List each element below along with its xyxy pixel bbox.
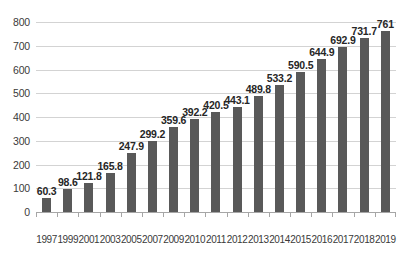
- y-axis-tick-label: 700: [0, 40, 30, 52]
- bar: [127, 153, 136, 212]
- bar-value-label: 60.3: [37, 185, 57, 197]
- x-axis-tick: [163, 212, 184, 217]
- x-axis-category-label: 2017: [332, 234, 353, 245]
- bar: [381, 31, 390, 212]
- bar: [42, 198, 51, 212]
- bar-slot: 590.5: [290, 22, 311, 212]
- x-axis-tick: [78, 212, 99, 217]
- x-axis-tick: [290, 212, 311, 217]
- x-axis-category-label: 2007: [142, 234, 163, 245]
- y-axis-tick-label: 0: [0, 206, 30, 218]
- x-axis-tick: [227, 212, 248, 217]
- x-axis-tick: [121, 212, 142, 217]
- bar-slot: 731.7: [354, 22, 375, 212]
- x-axis-category-label: 1997: [36, 234, 57, 245]
- bar-value-label: 165.8: [97, 160, 122, 172]
- x-axis-tick: [184, 212, 205, 217]
- x-axis-ticks: [36, 212, 396, 217]
- bar-value-label: 761: [377, 18, 394, 30]
- x-axis-tick: [354, 212, 375, 217]
- x-axis-category-label: 2016: [311, 234, 332, 245]
- bar-chart: 0100200300400500600700800 60.398.6121.81…: [0, 0, 402, 254]
- bar-value-label: 533.2: [267, 72, 292, 84]
- x-axis-category-label: 2001: [78, 234, 99, 245]
- x-axis-category-label: 2010: [184, 234, 205, 245]
- bar: [211, 112, 220, 212]
- bar-slot: 392.2: [184, 22, 205, 212]
- bar-slot: 692.9: [332, 22, 353, 212]
- x-axis-tick: [375, 212, 396, 217]
- bar-slot: 489.8: [248, 22, 269, 212]
- y-axis-tick-label: 600: [0, 64, 30, 76]
- bar-value-label: 644.9: [309, 46, 334, 58]
- bar: [254, 96, 263, 212]
- bar-slot: 420.5: [205, 22, 226, 212]
- bar-slot: 60.3: [36, 22, 57, 212]
- y-axis-tick-label: 500: [0, 87, 30, 99]
- x-axis-category-label: 2013: [248, 234, 269, 245]
- y-axis-tick-label: 300: [0, 135, 30, 147]
- y-axis-tick-label: 200: [0, 159, 30, 171]
- bar-value-label: 247.9: [119, 140, 144, 152]
- bar-slot: 533.2: [269, 22, 290, 212]
- bar: [106, 173, 115, 212]
- bar-value-label: 121.8: [76, 170, 101, 182]
- bar-slot: 359.6: [163, 22, 184, 212]
- x-axis-tick: [311, 212, 332, 217]
- x-axis-tick: [205, 212, 226, 217]
- bar: [63, 189, 72, 212]
- bar-value-label: 731.7: [352, 25, 377, 37]
- bar: [338, 47, 347, 212]
- bar: [169, 127, 178, 212]
- bars-layer: 60.398.6121.8165.8247.9299.2359.6392.242…: [36, 22, 396, 212]
- bar-slot: 165.8: [100, 22, 121, 212]
- x-axis-tick: [248, 212, 269, 217]
- y-axis-tick-label: 400: [0, 111, 30, 123]
- x-axis-category-label: 1999: [57, 234, 78, 245]
- x-axis-category-label: 2018: [354, 234, 375, 245]
- bar-slot: 443.1: [227, 22, 248, 212]
- x-axis-category-label: 2003: [100, 234, 121, 245]
- bar: [275, 85, 284, 212]
- bar-value-label: 489.8: [246, 83, 271, 95]
- bar: [317, 59, 326, 212]
- x-axis-tick: [36, 212, 57, 217]
- x-axis-category-label: 2011: [205, 234, 226, 245]
- x-axis-tick: [332, 212, 353, 217]
- y-axis-tick-label: 100: [0, 182, 30, 194]
- bar: [233, 107, 242, 212]
- x-axis-tick: [57, 212, 78, 217]
- bar-value-label: 590.5: [288, 59, 313, 71]
- x-axis-category-label: 2019: [375, 234, 396, 245]
- bar-slot: 299.2: [142, 22, 163, 212]
- x-axis-category-label: 2012: [227, 234, 248, 245]
- bar: [190, 119, 199, 212]
- bar: [296, 72, 305, 212]
- bar-slot: 761: [375, 22, 396, 212]
- x-axis-category-label: 2015: [290, 234, 311, 245]
- x-axis-category-label: 2005: [121, 234, 142, 245]
- bar: [148, 141, 157, 212]
- x-axis-tick: [269, 212, 290, 217]
- bar-slot: 644.9: [311, 22, 332, 212]
- x-axis-category-label: 2009: [163, 234, 184, 245]
- x-axis-tick: [100, 212, 121, 217]
- bar: [84, 183, 93, 212]
- bar: [360, 38, 369, 212]
- x-axis-category-label: 2014: [269, 234, 290, 245]
- bar-slot: 247.9: [121, 22, 142, 212]
- x-axis-tick: [142, 212, 163, 217]
- x-axis-tick-end: [395, 212, 396, 217]
- bar-value-label: 98.6: [58, 176, 78, 188]
- x-axis-labels: 1997199920012003200520072009201020112012…: [36, 234, 396, 245]
- bar-value-label: 299.2: [140, 128, 165, 140]
- y-axis-tick-label: 800: [0, 16, 30, 28]
- bar-value-label: 443.1: [224, 94, 249, 106]
- bar-slot: 98.6: [57, 22, 78, 212]
- bar-slot: 121.8: [78, 22, 99, 212]
